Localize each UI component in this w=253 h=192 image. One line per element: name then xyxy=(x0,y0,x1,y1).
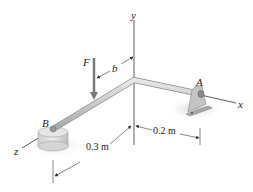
point-a-label: A xyxy=(195,76,203,88)
force-label: F xyxy=(82,56,90,68)
y-axis-label: y xyxy=(130,9,136,21)
diagram-svg: y x z A B xyxy=(0,0,253,192)
z-axis-label: z xyxy=(13,145,19,157)
dim-0-3m-label: 0.3 m xyxy=(86,141,109,152)
dim-0-2m-label: 0.2 m xyxy=(153,125,176,136)
dim-b-label: b xyxy=(112,62,118,74)
x-axis-label: x xyxy=(237,98,243,110)
force-arrow xyxy=(90,58,98,100)
point-b-label: B xyxy=(42,117,49,129)
diagram-canvas: y x z A B xyxy=(0,0,253,192)
